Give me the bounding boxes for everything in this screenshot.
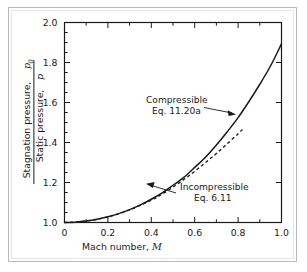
x-tick-label: 0.6 — [187, 227, 202, 238]
compressible-leader-line — [204, 108, 232, 114]
incompressible-label-line2: Eq. 6.11 — [194, 193, 232, 203]
annotation-leaders — [146, 108, 236, 194]
incompressible-label-line1: Incompressible — [180, 182, 249, 192]
annotation-compressible: Compressible Eq. 11.20a — [146, 95, 208, 116]
y-axis-title: Stagnation pressure, p 0 Static pressure… — [21, 59, 45, 184]
x-axis-title: Mach number, M — [82, 241, 163, 252]
y-axis-numerator-subscript: 0 — [27, 59, 35, 63]
x-tick-label: 1.0 — [274, 227, 289, 238]
x-tick-label: 0.4 — [144, 227, 159, 238]
compressible-label-line2: Eq. 11.20a — [152, 106, 201, 116]
annotation-incompressible: Incompressible Eq. 6.11 — [180, 182, 249, 203]
series-compressible-curve — [65, 44, 282, 223]
y-tick-label: 1.8 — [43, 57, 58, 68]
y-tick-label: 1.2 — [43, 177, 58, 188]
x-axis-tick-labels: 00.20.40.60.81.0 — [62, 227, 289, 238]
y-tick-label: 1.0 — [43, 217, 58, 228]
x-tick-label: 0.8 — [231, 227, 246, 238]
stagnation-pressure-chart: 00.20.40.60.81.0 1.01.21.41.61.82.0 Mach… — [0, 0, 307, 272]
y-axis-denominator-symbol: p — [34, 74, 45, 80]
figure-container: 00.20.40.60.81.0 1.01.21.41.61.82.0 Mach… — [0, 0, 307, 272]
y-tick-label: 2.0 — [43, 17, 58, 28]
series-incompressible-curve — [65, 130, 243, 223]
compressible-arrow-head — [228, 110, 236, 116]
incompressible-arrow-head — [146, 182, 155, 188]
y-axis-denominator-text: Static pressure, — [34, 90, 45, 163]
y-axis-numerator-text: Stagnation pressure, — [21, 82, 32, 179]
compressible-label-line1: Compressible — [146, 95, 208, 105]
x-tick-label: 0.2 — [101, 227, 116, 238]
x-tick-label: 0 — [62, 227, 68, 238]
x-axis-title-text: Mach number, — [82, 241, 149, 252]
x-axis-title-symbol: M — [151, 241, 163, 252]
